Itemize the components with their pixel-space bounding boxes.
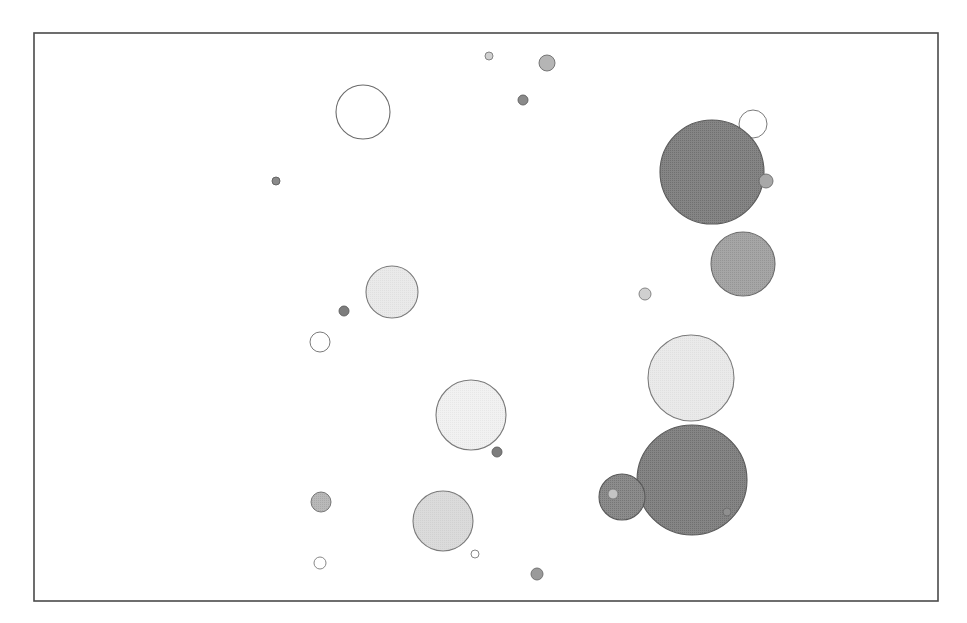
bubble-halftone-texture (638, 426, 747, 535)
bubble-scatter-plot (0, 0, 967, 623)
bubble-marker (492, 447, 502, 457)
bubble-marker (639, 288, 651, 300)
bubble-marker (518, 95, 528, 105)
bubble-halftone-texture (712, 233, 775, 296)
bubble-marker (336, 85, 390, 139)
bubble-halftone-texture (661, 121, 764, 224)
bubble-marker (485, 52, 493, 60)
bubble-halftone-texture (367, 267, 418, 318)
bubble-marker (723, 508, 731, 516)
bubble-halftone-texture (600, 475, 645, 520)
bubble-marker (539, 55, 555, 71)
bubble-marker (272, 177, 280, 185)
bubble-marker (471, 550, 479, 558)
bubble-marker (608, 489, 618, 499)
bubble-marker (531, 568, 543, 580)
bubble-halftone-texture (414, 492, 473, 551)
bubble-halftone-texture (312, 493, 331, 512)
bubble-marker (310, 332, 330, 352)
bubble-halftone-texture (437, 381, 506, 450)
bubble-halftone-texture (649, 336, 734, 421)
bubble-marker (314, 557, 326, 569)
figure-canvas (0, 0, 967, 623)
bubble-marker (759, 174, 773, 188)
plot-border (34, 33, 938, 601)
bubble-marker (339, 306, 349, 316)
